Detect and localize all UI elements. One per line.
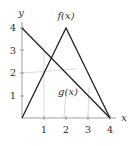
x-tick-1: 1 <box>41 124 47 135</box>
y-tick-4: 4 <box>10 22 16 33</box>
function-plot: 1 2 3 4 1 2 3 4 x y f(x) g(x) <box>0 0 137 146</box>
plot-canvas: 1 2 3 4 1 2 3 4 x y f(x) g(x) <box>0 0 137 146</box>
y-tick-1: 1 <box>10 90 16 101</box>
x-axis-label: x <box>121 112 127 123</box>
y-tick-2: 2 <box>10 67 16 78</box>
x-tick-3: 3 <box>85 124 91 135</box>
x-tick-4: 4 <box>107 124 113 135</box>
series-g <box>22 28 110 118</box>
y-axis-label: y <box>17 7 24 18</box>
g-label: g(x) <box>58 86 78 97</box>
pencil-marks <box>22 47 89 118</box>
y-tick-3: 3 <box>10 45 16 56</box>
f-label: f(x) <box>56 10 74 21</box>
x-tick-2: 2 <box>63 124 69 135</box>
